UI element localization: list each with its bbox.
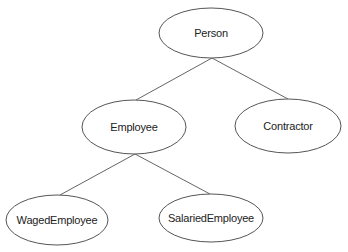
edge-person-contractor [212,58,288,99]
node-salaried-employee-label: SalariedEmployee [168,212,254,224]
node-contractor: Contractor [235,99,341,153]
node-waged-employee-label: WagedEmployee [17,214,98,226]
node-employee: Employee [82,100,186,154]
class-hierarchy-diagram: Person Employee Contractor WagedEmployee… [0,0,348,252]
node-salaried-employee: SalariedEmployee [159,194,263,242]
node-person-label: Person [194,27,228,39]
node-person: Person [159,8,263,58]
node-waged-employee: WagedEmployee [6,195,108,245]
edge-employee-salaried-employee [135,154,210,194]
edge-employee-waged-employee [60,154,135,195]
node-contractor-label: Contractor [263,120,313,132]
nodes: Person Employee Contractor WagedEmployee… [6,8,341,245]
edge-person-employee [136,58,212,100]
node-employee-label: Employee [110,121,157,133]
